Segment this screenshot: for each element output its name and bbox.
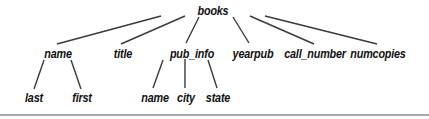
edge-books-name <box>57 16 161 44</box>
bottom-divider <box>0 114 429 116</box>
edge-name-last <box>34 60 44 89</box>
edge-books-pub_info <box>186 17 199 43</box>
node-call-number: call_number <box>284 47 346 61</box>
edge-name-first <box>71 60 81 89</box>
node-title: title <box>114 47 132 61</box>
node-name: name <box>44 47 72 61</box>
node-city: city <box>177 91 195 105</box>
node-state: state <box>206 91 230 105</box>
node-pub-info: pub_info <box>170 47 214 61</box>
node-pub-name: name <box>141 91 169 105</box>
edge-books-yearpub <box>233 17 249 43</box>
edge-books-title <box>121 16 185 44</box>
xml-tree-diagram: books name title pub_info yearpub call_n… <box>0 0 429 119</box>
node-first: first <box>72 91 92 105</box>
node-last: last <box>25 91 43 105</box>
edge-pub_info-state <box>208 60 217 88</box>
node-books: books <box>198 4 229 18</box>
node-numcopies: numcopies <box>350 47 405 61</box>
node-yearpub: yearpub <box>233 47 274 61</box>
edge-pub_info-name <box>153 60 163 88</box>
